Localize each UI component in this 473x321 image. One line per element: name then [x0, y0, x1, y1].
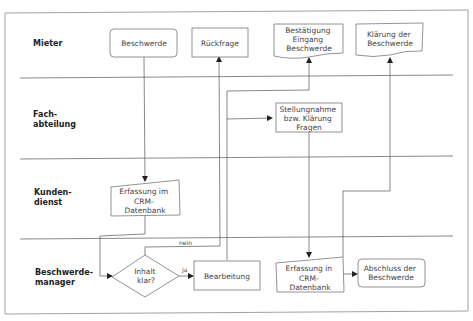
edge-bearbeitung-to-stellungnahme	[227, 118, 272, 119]
lane-label-fachabteilung: Fach- abteilung	[33, 110, 76, 129]
lane-divider	[20, 156, 453, 159]
edge-decision-nein-to-rueckfrage	[145, 57, 220, 255]
node-bearbeitung[interactable]: Bearbeitung	[194, 261, 260, 290]
node-inhalt-klar-decision[interactable]: Inhalt klar?	[112, 255, 179, 297]
lane-label-kundendienst: Kunden- dienst	[34, 188, 74, 207]
lane-divider	[20, 75, 453, 78]
node-klaerung[interactable]: Klärung der Beschwerde	[356, 23, 423, 57]
svg-text:Klärung der Beschwerde: Klärung der Beschwerde	[367, 30, 413, 48]
svg-text:Beschwerde: Beschwerde	[121, 39, 167, 48]
lane-label-beschwerdemanager: Beschwerde- manager	[35, 268, 96, 287]
svg-text:Bearbeitung: Bearbeitung	[204, 272, 250, 281]
edge-label-ja: ja	[181, 266, 188, 274]
lane-divider	[20, 236, 453, 239]
node-erfassung-kundendienst[interactable]: Erfassung im CRM- Datenbank	[111, 180, 180, 216]
svg-text:Abschluss der Beschwerde: Abschluss der Beschwerde	[364, 264, 419, 282]
swimlane-process-diagram: Mieter Fach- abteilung Kunden- dienst Be…	[0, 0, 473, 321]
node-abschluss[interactable]: Abschluss der Beschwerde	[358, 259, 425, 287]
edge-beschwerde-to-erfassung	[144, 57, 145, 181]
edge-bearbeitung-to-bestaetigung	[227, 58, 309, 260]
edge-erfassung-to-klaerung	[343, 58, 390, 257]
svg-text:Rückfrage: Rückfrage	[201, 39, 239, 48]
node-beschwerde[interactable]: Beschwerde	[110, 29, 177, 57]
svg-text:Inhalt klar?: Inhalt klar?	[134, 267, 158, 285]
edge-label-nein: nein	[179, 239, 192, 246]
node-rueckfrage[interactable]: Rückfrage	[192, 28, 248, 57]
node-bestaetigung[interactable]: Bestätigung Eingang Beschwerde	[274, 24, 343, 58]
lane-label-mieter: Mieter	[33, 39, 62, 48]
node-stellungnahme[interactable]: Stellungnahme bzw. Klärung Fragen	[276, 103, 342, 132]
node-erfassung-beschwerdemanager[interactable]: Erfassung in CRM- Datenbank	[276, 257, 344, 292]
